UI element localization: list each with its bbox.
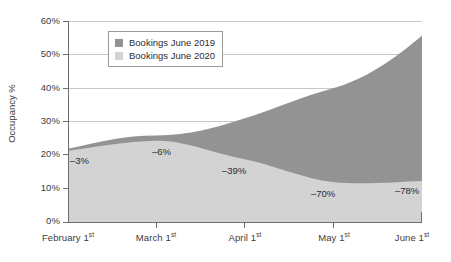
x-tick-june: June 1st bbox=[373, 232, 451, 243]
annotation-june: –78% bbox=[395, 185, 419, 196]
y-tick-60: 60% bbox=[18, 15, 60, 26]
x-tick-february-label: February 1 bbox=[42, 232, 89, 243]
ordinal-suffix: st bbox=[424, 231, 429, 238]
legend-swatch-2020-icon bbox=[115, 52, 123, 60]
ordinal-suffix: st bbox=[89, 231, 94, 238]
y-tick-30: 30% bbox=[18, 115, 60, 126]
x-axis-ticks bbox=[157, 223, 334, 229]
legend-swatch-2019-icon bbox=[115, 39, 123, 47]
annotation-march: –6% bbox=[152, 146, 171, 157]
y-axis-title: Occupancy % bbox=[6, 74, 17, 154]
chart-legend: Bookings June 2019 Bookings June 2020 bbox=[108, 31, 223, 67]
x-tick-march: March 1st bbox=[111, 232, 201, 243]
legend-item-2020[interactable]: Bookings June 2020 bbox=[115, 49, 215, 62]
x-tick-march-label: March 1 bbox=[136, 232, 171, 243]
x-tick-june-label: June 1 bbox=[395, 232, 424, 243]
ordinal-suffix: st bbox=[256, 231, 261, 238]
legend-item-2019[interactable]: Bookings June 2019 bbox=[115, 36, 215, 49]
y-tick-20: 20% bbox=[18, 148, 60, 159]
y-axis-ticks bbox=[63, 22, 68, 223]
x-tick-may: May 1st bbox=[289, 232, 379, 243]
occupancy-area-chart: Occupancy % 60% 50% 40% 30% 20% 10% 0% F… bbox=[0, 0, 451, 262]
x-tick-april: April 1st bbox=[200, 232, 290, 243]
annotation-february: –3% bbox=[70, 155, 89, 166]
annotation-april: –39% bbox=[222, 165, 246, 176]
y-tick-10: 10% bbox=[18, 182, 60, 193]
chart-plot-area bbox=[0, 0, 451, 262]
y-tick-40: 40% bbox=[18, 82, 60, 93]
ordinal-suffix: st bbox=[171, 231, 176, 238]
ordinal-suffix: st bbox=[345, 231, 350, 238]
y-tick-0: 0% bbox=[18, 215, 60, 226]
x-tick-february: February 1st bbox=[18, 232, 118, 243]
x-tick-may-label: May 1 bbox=[318, 232, 344, 243]
annotation-may: –70% bbox=[311, 188, 335, 199]
y-tick-50: 50% bbox=[18, 48, 60, 59]
x-tick-april-label: April 1 bbox=[229, 232, 257, 243]
legend-label-2020: Bookings June 2020 bbox=[129, 50, 215, 61]
legend-label-2019: Bookings June 2019 bbox=[129, 37, 215, 48]
